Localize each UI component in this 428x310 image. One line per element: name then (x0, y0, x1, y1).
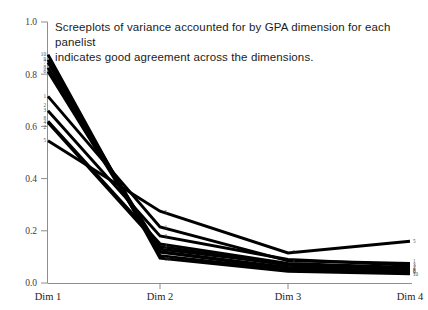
dim3-series-labels: 51 (292, 249, 295, 263)
y-tick-label: 0.2 (25, 226, 37, 236)
x-axis: Dim 1Dim 2Dim 3Dim 4 (35, 284, 424, 303)
chart-screenshot: Screeplots of variance accounted for by … (0, 0, 428, 310)
series-line (48, 55, 410, 274)
y-tick-label: 0.8 (25, 70, 37, 80)
series-endpoint-label: 1 (292, 257, 295, 263)
y-tick-label: 1.0 (25, 17, 37, 27)
left-series-labels: 1097861238425 (41, 51, 47, 143)
series-endpoint-label: 3 (165, 233, 168, 239)
y-tick-label: 0.0 (25, 278, 37, 288)
series-endpoint-label: 2 (43, 124, 46, 130)
y-tick-label: 0.4 (25, 174, 37, 184)
series-endpoint-label: 1 (165, 224, 168, 230)
series-line (48, 60, 410, 273)
series-endpoint-label: 5 (413, 238, 416, 244)
series-line (48, 68, 410, 270)
series-endpoint-label: 5 (165, 209, 168, 215)
x-tick-label: Dim 2 (147, 291, 174, 302)
x-tick-label: Dim 3 (275, 291, 302, 302)
y-tick-label: 0.6 (25, 122, 37, 132)
x-tick-label: Dim 4 (397, 291, 424, 302)
series-line (48, 62, 410, 271)
series-endpoint-label: 4 (165, 243, 168, 249)
x-axis-ticks: Dim 1Dim 2Dim 3Dim 4 (35, 284, 424, 303)
series-endpoint-label: 5 (43, 137, 46, 143)
series-endpoint-label: 10 (413, 271, 419, 277)
series-endpoint-label: 1 (43, 93, 46, 99)
right-series-labels: 513248910 (413, 238, 419, 277)
series-line (48, 111, 410, 266)
series-endpoint-label: 10 (165, 256, 171, 262)
series-endpoint-label: 3 (43, 107, 46, 113)
series-endpoint-label: 6 (43, 68, 46, 74)
series-endpoint-label: 5 (292, 249, 295, 255)
screeplot-chart: 0.00.20.40.60.81.0 Dim 1Dim 2Dim 3Dim 4 … (0, 0, 428, 310)
x-tick-label: Dim 1 (35, 291, 62, 302)
series-lines-group (48, 55, 410, 274)
